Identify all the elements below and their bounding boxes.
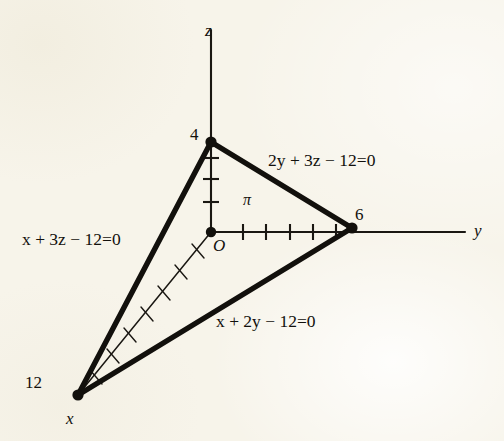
x-tick — [158, 286, 170, 300]
z-intercept-dot — [205, 136, 216, 147]
equation-yz-trace: 2y + 3z − 12=0 — [268, 152, 375, 170]
y-axis-label: y — [474, 222, 482, 239]
equation-xz-trace: x + 3z − 12=0 — [22, 231, 121, 249]
x-intercept-dot — [72, 389, 83, 400]
x-tick — [141, 307, 153, 321]
x-axis-line — [78, 232, 211, 395]
equation-xy-trace: x + 2y − 12=0 — [216, 313, 316, 331]
coordinate-diagram — [0, 0, 504, 441]
axis-lines — [78, 30, 465, 395]
y-intercept-value: 6 — [355, 206, 364, 223]
x-intercept-value: 12 — [25, 374, 42, 391]
y-intercept-dot — [346, 222, 357, 233]
plane-pi-label: π — [243, 192, 251, 208]
z-axis-label: z — [205, 22, 212, 39]
x-axis-label: x — [66, 410, 74, 427]
figure-page: z y x O 4 6 12 π 2y + 3z − 12=0 x + 3z −… — [0, 0, 504, 441]
vertex-dots — [72, 136, 357, 400]
z-intercept-value: 4 — [190, 126, 199, 143]
origin-label: O — [213, 237, 225, 254]
x-tick — [175, 265, 187, 279]
x-tick — [192, 244, 204, 258]
